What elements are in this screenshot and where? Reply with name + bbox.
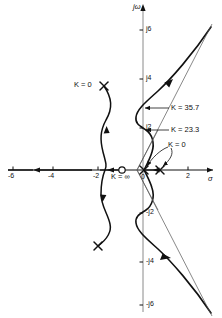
- root-locus-figure: jω σ -6 -4 -2 2 0 j6 j4 j2 -j2 -j4 -j6 K…: [0, 0, 222, 318]
- annotation-k-23-3: K = 23.3: [171, 125, 199, 134]
- locus-left-branch: [98, 86, 111, 246]
- annotation-k-infinity: K = ∞: [111, 172, 130, 181]
- annotation-k-zero-right: K = 0: [168, 140, 186, 149]
- y-tick-label-j6: j6: [146, 25, 151, 32]
- annotation-k-zero-left: K = 0: [74, 80, 92, 89]
- annotation-k-35-7: K = 35.7: [171, 103, 199, 112]
- y-tick-label-j4: j4: [146, 74, 151, 81]
- pole-upper-left: [100, 82, 108, 90]
- x-tick-label-neg2: -2: [93, 172, 99, 179]
- leader-k-0-right: [163, 148, 172, 166]
- callout-leaders: [145, 108, 172, 166]
- pole-lower-left: [94, 242, 102, 250]
- left-branch-arrow-upper: [104, 126, 110, 133]
- y-tick-label-negj2: -j2: [146, 208, 154, 215]
- axis-label-real: σ: [208, 174, 213, 183]
- x-tick-label-2: 2: [186, 172, 190, 179]
- origin-label: 0: [141, 173, 145, 180]
- y-tick-label-negj4: -j4: [146, 257, 154, 264]
- real-axis-locus-arrow: [33, 168, 40, 173]
- axis-label-imaginary: jω: [133, 2, 141, 11]
- root-locus-canvas: [0, 0, 222, 318]
- x-tick-label-neg4: -4: [48, 172, 54, 179]
- x-tick-label-neg6: -6: [8, 172, 14, 179]
- pole-markers: [94, 82, 164, 250]
- right-lower-branch-arrow: [160, 253, 171, 260]
- y-tick-label-j2: j2: [146, 123, 151, 130]
- y-tick-label-negj6: -j6: [146, 300, 154, 307]
